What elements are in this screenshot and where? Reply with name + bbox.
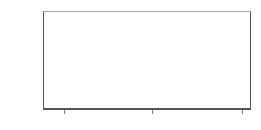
plot-inner bbox=[44, 12, 250, 108]
plot-area bbox=[43, 11, 251, 110]
x-tick-mark bbox=[242, 110, 243, 114]
y-axis-tick-labels bbox=[14, 0, 41, 130]
chart-page bbox=[0, 0, 261, 130]
x-tick-mark bbox=[152, 110, 153, 114]
x-tick-mark bbox=[64, 110, 65, 114]
